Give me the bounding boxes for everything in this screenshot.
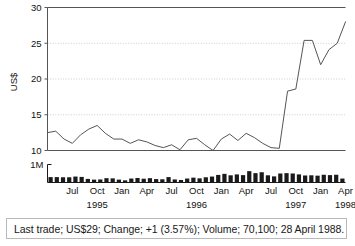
x-tick-label-month: Jul bbox=[166, 185, 178, 196]
volume-bar bbox=[117, 180, 121, 183]
volume-bar bbox=[303, 175, 307, 182]
x-tick-label-month: Jan bbox=[114, 185, 129, 196]
volume-bar bbox=[222, 174, 226, 183]
volume-bar bbox=[80, 177, 84, 183]
volume-bar bbox=[204, 177, 208, 182]
volume-bar bbox=[297, 174, 301, 182]
volume-bar bbox=[309, 175, 313, 182]
volume-bar bbox=[191, 178, 195, 183]
volume-bar bbox=[73, 177, 77, 183]
x-tick-label-year: 1995 bbox=[87, 199, 108, 210]
volume-bar bbox=[235, 174, 239, 182]
volume-bar bbox=[253, 173, 257, 182]
volume-bar bbox=[86, 179, 90, 183]
volume-bar bbox=[98, 179, 102, 182]
volume-bar bbox=[210, 177, 214, 183]
volume-bar bbox=[241, 175, 245, 182]
volume-bar bbox=[142, 179, 146, 183]
volume-bar bbox=[173, 179, 177, 182]
volume-bar bbox=[129, 179, 133, 183]
price-volume-chart: 1015202530US$1MJulOctJanAprJulOctJanAprJ… bbox=[0, 0, 355, 214]
volume-bar bbox=[92, 180, 96, 183]
status-bar: Last trade; US$29; Change; +1 (3.57%); V… bbox=[6, 218, 347, 239]
volume-bar bbox=[166, 177, 170, 182]
volume-bar bbox=[197, 178, 201, 182]
volume-bar bbox=[55, 177, 59, 182]
x-tick-label-month: Apr bbox=[139, 185, 154, 196]
x-tick-label-month: Oct bbox=[189, 185, 204, 196]
volume-bar bbox=[185, 179, 189, 183]
volume-bar bbox=[104, 178, 108, 182]
y-axis-title: US$ bbox=[8, 72, 19, 91]
volume-bar bbox=[260, 172, 264, 182]
volume-bar bbox=[284, 173, 288, 182]
volume-bar bbox=[334, 175, 338, 183]
volume-bar bbox=[266, 175, 270, 182]
y-tick-label: 30 bbox=[31, 2, 42, 13]
last-trade-summary: Last trade; US$29; Change; +1 (3.57%); V… bbox=[14, 223, 344, 235]
chart-canvas: 1015202530US$1MJulOctJanAprJulOctJanAprJ… bbox=[0, 0, 355, 214]
volume-bar bbox=[272, 176, 276, 182]
x-tick-label-month: Jan bbox=[214, 185, 229, 196]
volume-bar bbox=[322, 175, 326, 183]
volume-bar bbox=[160, 179, 164, 182]
y-tick-label: 15 bbox=[31, 109, 42, 120]
x-tick-label-month: Jan bbox=[313, 185, 328, 196]
y-tick-label: 10 bbox=[31, 145, 42, 156]
x-tick-label-year: 1998 bbox=[335, 199, 355, 210]
volume-bar bbox=[123, 180, 127, 182]
x-tick-label-year: 1997 bbox=[285, 199, 306, 210]
volume-bar bbox=[48, 177, 52, 182]
volume-bar bbox=[135, 178, 139, 183]
volume-bar bbox=[328, 175, 332, 182]
volume-bar bbox=[111, 178, 115, 182]
volume-bar bbox=[340, 179, 344, 183]
volume-axis-label: 1M bbox=[30, 159, 43, 170]
volume-bar bbox=[315, 176, 319, 183]
volume-bar bbox=[247, 171, 251, 182]
volume-bar bbox=[229, 175, 233, 182]
volume-bar bbox=[67, 177, 71, 182]
volume-bar bbox=[148, 178, 152, 182]
volume-bar bbox=[61, 177, 65, 182]
y-tick-label: 25 bbox=[31, 38, 42, 49]
volume-bar bbox=[216, 175, 220, 183]
volume-bar bbox=[154, 179, 158, 182]
volume-bar bbox=[179, 180, 183, 183]
x-tick-label-month: Apr bbox=[239, 185, 254, 196]
y-tick-label: 20 bbox=[31, 73, 42, 84]
price-line-series bbox=[48, 22, 346, 151]
x-tick-label-month: Jul bbox=[265, 185, 277, 196]
x-tick-label-month: Oct bbox=[90, 185, 105, 196]
volume-bar bbox=[278, 174, 282, 183]
stock-chart-widget: 1015202530US$1MJulOctJanAprJulOctJanAprJ… bbox=[0, 0, 355, 246]
volume-bar bbox=[291, 174, 295, 183]
x-tick-label-month: Jul bbox=[66, 185, 78, 196]
x-tick-label-month: Oct bbox=[288, 185, 303, 196]
x-tick-label-month: Apr bbox=[338, 185, 353, 196]
x-tick-label-year: 1996 bbox=[186, 199, 207, 210]
